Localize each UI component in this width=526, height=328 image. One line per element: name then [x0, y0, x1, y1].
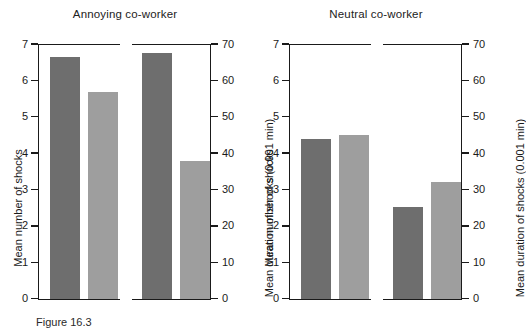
left-tick-label: 6	[273, 75, 279, 86]
right-tick-label: 10	[473, 257, 485, 268]
left-axis-label: Mean number of shocks	[12, 128, 24, 288]
bar-dark-left	[50, 57, 80, 299]
right-tick-label: 20	[222, 220, 234, 231]
plot-area: 01234567 010203040506070 Mean number of …	[251, 44, 501, 300]
right-tick-mark	[211, 298, 218, 299]
bar-dark-left	[301, 139, 331, 299]
left-tick-label: 0	[22, 293, 28, 304]
left-tick-label: 7	[273, 39, 279, 50]
right-tick-label: 0	[473, 293, 479, 304]
right-tick-mark	[211, 262, 218, 263]
left-tick-mark	[282, 298, 289, 299]
panel-title: Annoying co-worker	[0, 8, 250, 20]
bar-light-right	[180, 161, 210, 298]
right-tick-label: 0	[222, 293, 228, 304]
left-tick-mark	[31, 262, 38, 263]
left-tick-mark	[282, 80, 289, 81]
left-tick-mark	[31, 116, 38, 117]
left-tick-mark	[31, 152, 38, 153]
left-tick-mark	[31, 43, 38, 44]
left-tick-mark	[31, 80, 38, 81]
baseline-segment-left	[289, 299, 371, 300]
right-tick-mark	[462, 298, 469, 299]
left-axis-spine	[38, 44, 39, 300]
right-tick-label: 30	[222, 184, 234, 195]
right-tick-mark	[211, 116, 218, 117]
right-tick-mark	[462, 116, 469, 117]
panel-annoying-co-worker: Annoying co-worker 01234567 010203040506…	[0, 0, 250, 327]
baseline-segment-right	[383, 299, 462, 300]
right-tick-label: 70	[222, 39, 234, 50]
top-rule-segment-right	[383, 44, 462, 45]
right-tick-mark	[211, 189, 218, 190]
panel-title: Neutral co-worker	[251, 8, 501, 20]
left-tick-mark	[31, 189, 38, 190]
plot-area: 01234567 010203040506070 Mean number of …	[0, 44, 250, 300]
top-rule-segment-right	[132, 44, 211, 45]
left-tick-mark	[282, 225, 289, 226]
bar-dark-right	[142, 53, 172, 299]
left-tick-label: 5	[273, 111, 279, 122]
right-tick-mark	[462, 262, 469, 263]
right-tick-mark	[211, 225, 218, 226]
right-tick-label: 60	[473, 75, 485, 86]
left-tick-label: 0	[273, 293, 279, 304]
right-tick-label: 50	[222, 111, 234, 122]
right-tick-mark	[211, 43, 218, 44]
bar-dark-right	[393, 207, 423, 299]
left-tick-label: 6	[22, 75, 28, 86]
right-tick-mark	[211, 80, 218, 81]
right-tick-mark	[462, 43, 469, 44]
right-tick-label: 40	[222, 148, 234, 159]
bar-light-left	[339, 135, 369, 299]
left-axis-label: Mean number of shocks	[263, 128, 275, 288]
left-tick-mark	[282, 43, 289, 44]
panel-neutral-co-worker: Neutral co-worker 01234567 0102030405060…	[251, 0, 501, 327]
right-tick-label: 60	[222, 75, 234, 86]
baseline-segment-left	[38, 299, 120, 300]
bar-light-left	[88, 92, 118, 298]
right-tick-mark	[462, 225, 469, 226]
top-rule-segment-left	[289, 44, 371, 45]
left-tick-mark	[31, 225, 38, 226]
left-axis-spine	[289, 44, 290, 300]
left-tick-mark	[282, 116, 289, 117]
left-tick-mark	[31, 298, 38, 299]
right-tick-label: 70	[473, 39, 485, 50]
baseline-segment-right	[132, 299, 211, 300]
bar-light-right	[431, 182, 461, 298]
left-tick-label: 5	[22, 111, 28, 122]
right-tick-mark	[462, 80, 469, 81]
left-tick-label: 7	[22, 39, 28, 50]
right-tick-mark	[462, 189, 469, 190]
right-tick-label: 10	[222, 257, 234, 268]
right-tick-label: 40	[473, 148, 485, 159]
right-tick-mark	[211, 152, 218, 153]
right-tick-mark	[462, 152, 469, 153]
right-tick-label: 20	[473, 220, 485, 231]
right-tick-label: 50	[473, 111, 485, 122]
left-tick-mark	[282, 189, 289, 190]
left-tick-mark	[282, 152, 289, 153]
right-axis-label: Mean duration of shocks (0.001 min)	[514, 98, 526, 318]
top-rule-segment-left	[38, 44, 120, 45]
left-tick-mark	[282, 262, 289, 263]
right-tick-label: 30	[473, 184, 485, 195]
figure-caption: Figure 16.3	[36, 316, 92, 328]
